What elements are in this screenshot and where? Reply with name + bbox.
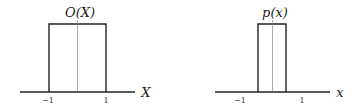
left-tick-neg1: −1 — [42, 96, 54, 105]
right-axis-label: x — [336, 85, 344, 100]
left-diagram: O(X) −1 1 X — [20, 5, 151, 105]
right-tick-pos1: 1 — [299, 96, 304, 105]
right-title: p(x) — [262, 5, 288, 20]
right-diagram: p(x) −1 1 x — [215, 5, 344, 105]
right-pulse — [258, 24, 286, 92]
left-title: O(X) — [65, 5, 95, 20]
diagram-canvas: O(X) −1 1 X p(x) −1 1 x — [0, 0, 360, 109]
left-axis-label: X — [140, 85, 151, 100]
right-tick-neg1: −1 — [234, 96, 246, 105]
left-tick-pos1: 1 — [103, 96, 108, 105]
